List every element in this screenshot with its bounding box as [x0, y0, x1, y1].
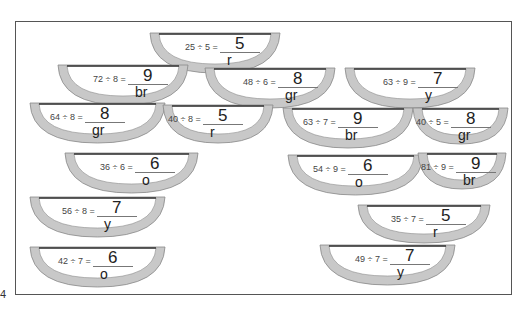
color-code: gr — [285, 88, 297, 102]
problem-bowl: 48 ÷ 6 =8gr — [205, 68, 335, 108]
answer-blank[interactable]: 9 — [456, 156, 496, 173]
division-question: 35 ÷ 7 = — [391, 213, 424, 225]
answer-blank[interactable]: 7 — [418, 71, 458, 88]
equation: 54 ÷ 9 =6 — [313, 158, 388, 175]
division-question: 25 ÷ 5 = — [185, 41, 218, 53]
equation: 36 ÷ 6 =6 — [100, 156, 175, 173]
equation: 72 ÷ 8 =9 — [93, 68, 168, 85]
answer-blank[interactable]: 6 — [93, 250, 133, 267]
problem-bowl: 81 ÷ 9 =9br — [418, 153, 506, 189]
division-question: 63 ÷ 9 = — [383, 76, 416, 88]
division-question: 56 ÷ 8 = — [62, 205, 95, 217]
division-question: 49 ÷ 7 = — [355, 253, 388, 265]
color-code: gr — [92, 123, 104, 137]
color-code: r — [433, 225, 438, 239]
color-code: o — [355, 175, 363, 189]
page-number: 4 — [0, 288, 6, 300]
equation: 56 ÷ 8 =7 — [62, 200, 137, 217]
color-code: gr — [458, 128, 470, 142]
division-question: 64 ÷ 8 = — [50, 111, 83, 123]
color-code: br — [345, 128, 357, 142]
answer-blank[interactable]: 9 — [338, 111, 378, 128]
equation: 49 ÷ 7 =7 — [355, 248, 430, 265]
problem-bowl: 63 ÷ 9 =7y — [345, 68, 475, 108]
division-question: 81 ÷ 9 = — [421, 161, 454, 173]
problem-bowl: 36 ÷ 6 =6o — [65, 153, 198, 193]
equation: 40 ÷ 8 =5 — [168, 108, 243, 125]
problem-bowl: 54 ÷ 9 =6o — [288, 155, 423, 195]
equation: 48 ÷ 6 =8 — [243, 71, 318, 88]
answer-blank[interactable]: 6 — [348, 158, 388, 175]
problem-bowl: 56 ÷ 8 =7y — [30, 197, 165, 237]
answer-blank[interactable]: 8 — [278, 71, 318, 88]
division-question: 40 ÷ 5 = — [416, 116, 449, 128]
problem-bowl: 49 ÷ 7 =7y — [320, 245, 455, 285]
problem-bowl: 35 ÷ 7 =5r — [358, 205, 490, 243]
division-question: 36 ÷ 6 = — [100, 161, 133, 173]
equation: 42 ÷ 7 =6 — [58, 250, 133, 267]
answer-blank[interactable]: 8 — [451, 111, 491, 128]
color-code: o — [142, 173, 150, 187]
division-question: 42 ÷ 7 = — [58, 255, 91, 267]
equation: 81 ÷ 9 =9 — [421, 156, 496, 173]
equation: 25 ÷ 5 =5 — [185, 36, 260, 53]
problem-bowl: 72 ÷ 8 =9br — [58, 65, 188, 105]
color-code: br — [135, 85, 147, 99]
color-code: o — [100, 267, 108, 281]
problem-bowl: 40 ÷ 5 =8gr — [413, 108, 508, 144]
problem-bowl: 63 ÷ 7 =9br — [283, 108, 413, 148]
equation: 35 ÷ 7 =5 — [391, 208, 466, 225]
division-question: 40 ÷ 8 = — [168, 113, 201, 125]
answer-blank[interactable]: 5 — [426, 208, 466, 225]
color-code: r — [210, 125, 215, 139]
answer-blank[interactable]: 7 — [97, 200, 137, 217]
equation: 64 ÷ 8 =8 — [50, 106, 125, 123]
answer-blank[interactable]: 5 — [203, 108, 243, 125]
answer-blank[interactable]: 7 — [390, 248, 430, 265]
color-code: y — [104, 217, 111, 231]
color-code: y — [397, 265, 404, 279]
equation: 63 ÷ 7 =9 — [303, 111, 378, 128]
answer-blank[interactable]: 9 — [128, 68, 168, 85]
problem-bowl: 42 ÷ 7 =6o — [30, 247, 165, 287]
division-question: 72 ÷ 8 = — [93, 73, 126, 85]
color-code: br — [463, 173, 475, 187]
problem-bowl: 64 ÷ 8 =8gr — [30, 103, 165, 143]
problem-bowl: 40 ÷ 8 =5r — [163, 105, 273, 143]
division-question: 63 ÷ 7 = — [303, 116, 336, 128]
answer-blank[interactable]: 5 — [220, 36, 260, 53]
color-code: r — [227, 53, 232, 67]
equation: 40 ÷ 5 =8 — [416, 111, 491, 128]
equation: 63 ÷ 9 =7 — [383, 71, 458, 88]
division-question: 54 ÷ 9 = — [313, 163, 346, 175]
division-question: 48 ÷ 6 = — [243, 76, 276, 88]
answer-blank[interactable]: 6 — [135, 156, 175, 173]
color-code: y — [425, 88, 432, 102]
answer-blank[interactable]: 8 — [85, 106, 125, 123]
